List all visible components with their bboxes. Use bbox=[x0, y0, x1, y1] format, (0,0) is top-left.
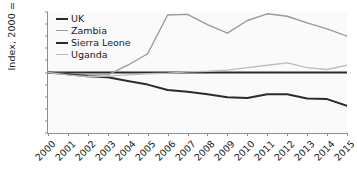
x-axis-tick-mark bbox=[188, 133, 189, 136]
x-axis-tick-mark bbox=[287, 133, 288, 136]
legend-item-uganda[interactable]: Uganda bbox=[56, 49, 131, 60]
series-line-sierra-leone bbox=[48, 73, 347, 106]
legend-item-label: UK bbox=[71, 13, 84, 24]
legend-swatch-icon bbox=[56, 42, 68, 44]
legend-item-sierra-leone[interactable]: Sierra Leone bbox=[56, 37, 131, 48]
legend-swatch-icon bbox=[56, 18, 68, 20]
x-axis-tick-mark bbox=[207, 133, 208, 136]
legend-item-label: Sierra Leone bbox=[71, 37, 131, 48]
x-axis-tick-mark bbox=[307, 133, 308, 136]
x-axis-tick-mark bbox=[48, 133, 49, 136]
x-axis-tick-mark bbox=[88, 133, 89, 136]
x-axis-tick-mark bbox=[148, 133, 149, 136]
x-axis-tick-mark bbox=[247, 133, 248, 136]
x-axis-tick-mark bbox=[347, 133, 348, 136]
x-axis-tick-mark bbox=[68, 133, 69, 136]
x-axis-tick-mark bbox=[128, 133, 129, 136]
x-axis-line bbox=[47, 133, 347, 134]
x-axis-tick-mark bbox=[227, 133, 228, 136]
chart-legend: UKZambiaSierra LeoneUganda bbox=[56, 13, 131, 60]
legend-item-uk[interactable]: UK bbox=[56, 13, 131, 24]
x-axis-tick-mark bbox=[327, 133, 328, 136]
x-axis-tick-mark bbox=[267, 133, 268, 136]
legend-item-label: Uganda bbox=[71, 49, 108, 60]
x-axis-tick-mark bbox=[108, 133, 109, 136]
y-axis-title: Index, 2000 = 100 bbox=[6, 0, 17, 81]
legend-item-zambia[interactable]: Zambia bbox=[56, 25, 131, 36]
legend-swatch-icon bbox=[56, 30, 68, 31]
x-axis-tick-mark bbox=[168, 133, 169, 136]
legend-swatch-icon bbox=[56, 54, 68, 55]
legend-item-label: Zambia bbox=[71, 25, 107, 36]
